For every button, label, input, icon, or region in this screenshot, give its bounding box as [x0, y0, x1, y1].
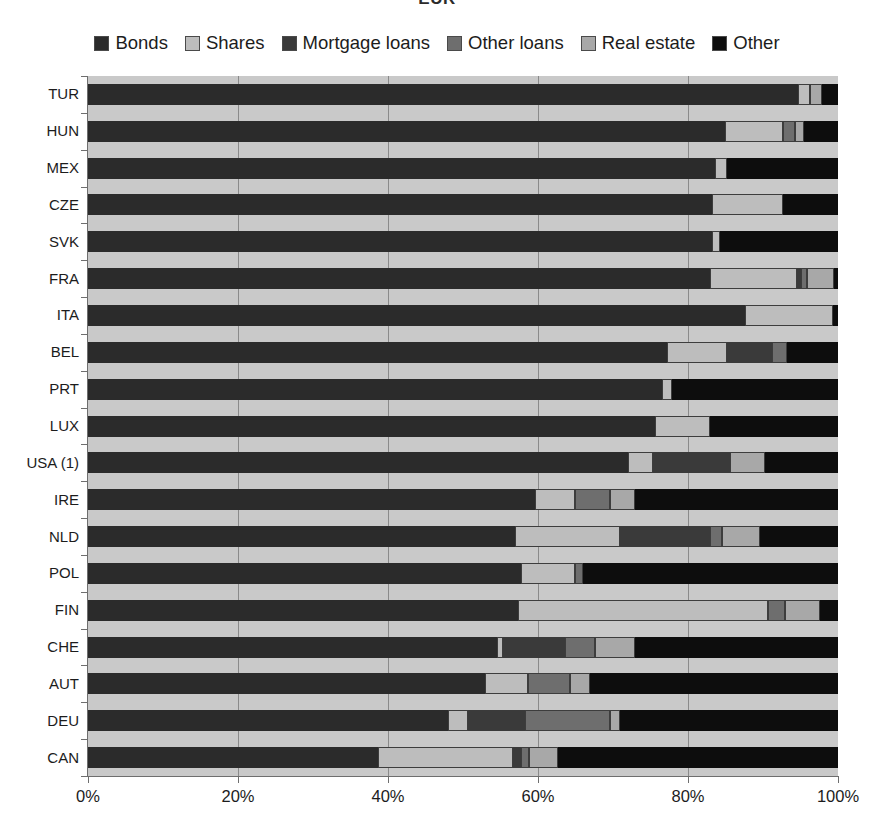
bar-segment[interactable]	[595, 637, 635, 658]
bar-segment[interactable]	[783, 194, 838, 215]
bar-segment[interactable]	[712, 194, 783, 215]
bar-segment[interactable]	[610, 489, 635, 510]
bar-segment[interactable]	[760, 526, 838, 547]
bar-segment[interactable]	[88, 121, 725, 142]
bar-segment[interactable]	[662, 379, 672, 400]
bar-segment[interactable]	[783, 121, 795, 142]
legend-item-other[interactable]: Other	[712, 34, 779, 53]
legend-item-real-estate[interactable]: Real estate	[581, 34, 696, 53]
bar-segment[interactable]	[88, 673, 485, 694]
bar-segment[interactable]	[570, 673, 590, 694]
bar-segment[interactable]	[88, 710, 448, 731]
bar-segment[interactable]	[798, 84, 810, 105]
legend-swatch-icon	[94, 36, 109, 51]
bar-segment[interactable]	[528, 673, 570, 694]
bar-segment[interactable]	[529, 747, 558, 768]
bar-segment[interactable]	[515, 526, 620, 547]
bar-segment[interactable]	[710, 268, 797, 289]
bar-segment[interactable]	[448, 710, 468, 731]
bar-segment[interactable]	[485, 673, 528, 694]
bar-segment[interactable]	[804, 121, 838, 142]
bar-segment[interactable]	[833, 305, 838, 326]
bar-segment[interactable]	[720, 231, 838, 252]
bar-segment[interactable]	[468, 710, 525, 731]
bar-segment[interactable]	[518, 600, 768, 621]
bar-segment[interactable]	[727, 342, 772, 363]
bar-segment[interactable]	[795, 121, 805, 142]
bar-segment[interactable]	[745, 305, 833, 326]
bar-segment[interactable]	[88, 342, 667, 363]
legend-swatch-icon	[185, 36, 200, 51]
bar-segment[interactable]	[722, 526, 760, 547]
bar-segment[interactable]	[575, 489, 610, 510]
bar-segment[interactable]	[88, 489, 535, 510]
y-axis-tick	[81, 113, 87, 114]
bar-segment[interactable]	[710, 526, 722, 547]
bar-segment[interactable]	[521, 747, 529, 768]
bar-segment[interactable]	[590, 673, 838, 694]
bar-segment[interactable]	[88, 416, 655, 437]
bar-segment[interactable]	[628, 452, 653, 473]
bar-segment[interactable]	[88, 747, 378, 768]
bar-segment[interactable]	[635, 637, 838, 658]
legend-item-shares[interactable]: Shares	[185, 34, 265, 53]
bar-segment[interactable]	[620, 710, 838, 731]
bar-row	[88, 305, 838, 326]
bar-segment[interactable]	[785, 600, 820, 621]
bar-segment[interactable]	[725, 121, 783, 142]
bar-segment[interactable]	[88, 563, 521, 584]
bar-segment[interactable]	[765, 452, 838, 473]
bar-segment[interactable]	[535, 489, 575, 510]
bar-segment[interactable]	[88, 305, 745, 326]
bar-segment[interactable]	[807, 268, 834, 289]
legend-label: Real estate	[602, 34, 696, 53]
bar-segment[interactable]	[810, 84, 822, 105]
bar-segment[interactable]	[88, 268, 710, 289]
bar-segment[interactable]	[503, 637, 565, 658]
bar-segment[interactable]	[88, 600, 518, 621]
bar-segment[interactable]	[730, 452, 765, 473]
bar-segment[interactable]	[558, 747, 838, 768]
bar-segment[interactable]	[667, 342, 727, 363]
bar-segment[interactable]	[88, 452, 628, 473]
bar-segment[interactable]	[834, 268, 839, 289]
bar-segment[interactable]	[712, 231, 720, 252]
bar-segment[interactable]	[772, 342, 787, 363]
bar-segment[interactable]	[620, 526, 710, 547]
bar-segment[interactable]	[88, 194, 712, 215]
bar-segment[interactable]	[635, 489, 838, 510]
bar-segment[interactable]	[787, 342, 838, 363]
bar-segment[interactable]	[88, 84, 798, 105]
legend-item-other-loans[interactable]: Other loans	[447, 34, 564, 53]
bar-segment[interactable]	[672, 379, 839, 400]
bar-segment[interactable]	[88, 231, 712, 252]
y-axis-tick	[81, 371, 87, 372]
bar-segment[interactable]	[820, 600, 838, 621]
bar-segment[interactable]	[565, 637, 595, 658]
legend-item-mortgage-loans[interactable]: Mortgage loans	[282, 34, 431, 53]
bar-segment[interactable]	[521, 563, 575, 584]
bar-segment[interactable]	[88, 526, 515, 547]
bar-segment[interactable]	[715, 158, 727, 179]
bar-segment[interactable]	[822, 84, 838, 105]
bar-segment[interactable]	[583, 563, 838, 584]
y-axis-tick	[81, 260, 87, 261]
bar-segment[interactable]	[575, 563, 583, 584]
bar-row	[88, 452, 838, 473]
bar-segment[interactable]	[525, 710, 610, 731]
bar-segment[interactable]	[513, 747, 521, 768]
bar-segment[interactable]	[655, 416, 710, 437]
bar-segment[interactable]	[610, 710, 620, 731]
legend-item-bonds[interactable]: Bonds	[94, 34, 167, 53]
bar-segment[interactable]	[378, 747, 512, 768]
bar-segment[interactable]	[88, 637, 497, 658]
bar-segment[interactable]	[710, 416, 838, 437]
y-axis-tick-label: FIN	[0, 602, 79, 617]
bar-segment[interactable]	[768, 600, 785, 621]
bar-row	[88, 637, 838, 658]
bar-segment[interactable]	[653, 452, 730, 473]
bar-segment[interactable]	[727, 158, 838, 179]
bar-segment[interactable]	[88, 158, 715, 179]
y-axis-tick	[81, 739, 87, 740]
bar-segment[interactable]	[88, 379, 662, 400]
